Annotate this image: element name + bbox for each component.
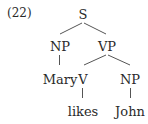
- node-s: S: [79, 8, 88, 21]
- leaf-john: John: [115, 105, 145, 118]
- edge-s-np: [60, 23, 82, 34]
- leaf-mary: Mary: [43, 73, 78, 86]
- node-vp: VP: [98, 40, 116, 53]
- node-np-object: NP: [120, 73, 140, 86]
- edge-vp-np: [108, 55, 130, 65]
- edge-s-vp: [84, 23, 106, 34]
- node-np-subject: NP: [50, 40, 70, 53]
- node-v: V: [78, 73, 87, 86]
- edge-vp-v: [84, 55, 106, 65]
- leaf-likes: likes: [68, 105, 99, 118]
